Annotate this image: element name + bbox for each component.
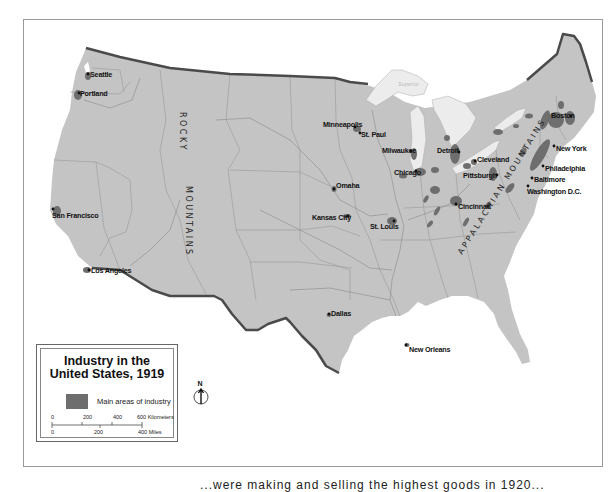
legend-inner-border: Industry in the United States, 1919 Main… (40, 348, 174, 438)
city-label-new-orleans: New Orleans (409, 345, 451, 354)
city-label-st-paul: St. Paul (361, 130, 386, 139)
map-legend: Industry in the United States, 1919 Main… (36, 344, 178, 442)
city-label-boston: Boston (551, 111, 575, 120)
legend-title: Industry in the United States, 1919 (41, 355, 173, 381)
city-label-portland: Portland (80, 89, 108, 98)
city-label-dallas: Dallas (331, 309, 351, 318)
scale-km-200: 200 (83, 414, 92, 420)
us-landmass (50, 34, 596, 373)
city-label-st-louis: St. Louis (370, 222, 399, 231)
city-label-san-francisco: San Francisco (52, 211, 99, 220)
city-label-cleveland: Cleveland (477, 155, 509, 164)
city-label-detroit: Detroit (437, 146, 460, 155)
industry-swatch (66, 394, 88, 409)
scale-mi-400: 400 Miles (138, 429, 162, 435)
scale-km-400: 400 (113, 414, 122, 420)
city-label-pittsburgh: Pittsburgh (463, 171, 497, 180)
city-label-baltimore: Baltimore (534, 175, 566, 184)
compass-rose: N (194, 380, 208, 404)
legend-title-line2: United States, 1919 (41, 368, 173, 381)
city-label-kansas-city: Kansas City (312, 213, 351, 222)
city-label-omaha: Omaha (336, 181, 361, 190)
scale-mi-200: 200 (94, 429, 103, 435)
mountains-label-west: MOUNTAINS (184, 186, 193, 257)
scale-bar: 0 200 400 600 Kilometers 0 200 400 Miles (41, 413, 177, 439)
city-label-chicago: Chicago (394, 168, 422, 177)
city-label-washington-dc: Washington D.C. (527, 187, 581, 196)
lake-label-superior: Superior (398, 81, 420, 87)
scale-km-0: 0 (51, 414, 54, 420)
city-label-philadelphia: Philadelphia (545, 164, 586, 173)
city-label-los-angeles: Los Angeles (91, 266, 131, 275)
city-label-cincinnati: Cincinnati (458, 202, 491, 211)
city-label-milwaukee: Milwaukee (382, 146, 416, 155)
rocky-label: ROCKY (178, 112, 187, 152)
scale-mi-0: 0 (51, 429, 54, 435)
compass-north-label: N (198, 380, 203, 387)
industry-swatch-label: Main areas of industry (97, 397, 171, 406)
city-label-minneapolis: Minneapolis (323, 120, 363, 129)
scale-km-600: 600 Kilometers (137, 414, 174, 420)
caption-fragment: ...were making and selling the highest g… (200, 478, 545, 492)
city-label-seattle: Seattle (90, 70, 112, 79)
city-label-new-york: New York (556, 144, 587, 153)
